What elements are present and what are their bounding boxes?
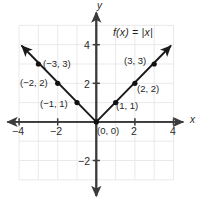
point-marker xyxy=(36,61,41,66)
function-label: f(x) = |x| xyxy=(113,27,153,38)
point-label-0-0: (0, 0) xyxy=(97,126,119,136)
point-label-neg2-2: (−2, 2) xyxy=(20,78,48,88)
coordinate-plane-svg xyxy=(0,0,200,204)
x-tick-label-2: 2 xyxy=(131,126,137,137)
point-label-neg3-3: (−3, 3) xyxy=(43,59,71,69)
x-tick-label-neg4: −4 xyxy=(12,126,24,137)
point-marker xyxy=(55,81,60,86)
x-tick-label-4: 4 xyxy=(170,126,176,137)
y-tick-label-neg2: −2 xyxy=(78,156,90,167)
point-marker xyxy=(74,100,79,105)
y-tick-label-4: 4 xyxy=(84,40,90,51)
point-label-3-3: (3, 3) xyxy=(124,56,146,66)
point-label-1-1: (1, 1) xyxy=(116,101,138,111)
point-label-neg1-1: (−1, 1) xyxy=(40,99,68,109)
point-marker xyxy=(94,119,99,124)
x-tick-label-neg2: −2 xyxy=(50,126,62,137)
graph-figure: y x f(x) = |x| −4 −2 2 4 4 2 −2 (−3, 3) … xyxy=(0,0,200,204)
y-tick-label-2: 2 xyxy=(84,79,90,90)
point-label-2-2: (2, 2) xyxy=(137,84,159,94)
point-marker xyxy=(152,61,157,66)
axis-lines xyxy=(8,13,184,197)
y-axis-name: y xyxy=(97,1,102,11)
x-axis-name: x xyxy=(190,115,195,125)
